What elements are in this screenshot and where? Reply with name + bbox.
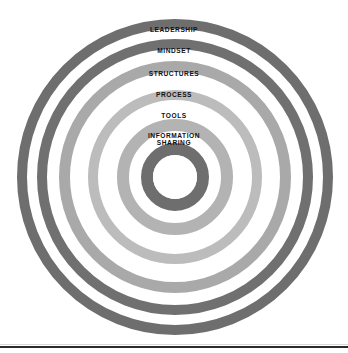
ring-core <box>153 155 197 199</box>
footer-divider <box>0 346 348 348</box>
concentric-rings-diagram: LEADERSHIP MINDSET STRUCTURES PROCESS TO… <box>0 0 348 353</box>
footer-rule-highlight <box>0 344 348 345</box>
ring-stage <box>0 0 348 353</box>
